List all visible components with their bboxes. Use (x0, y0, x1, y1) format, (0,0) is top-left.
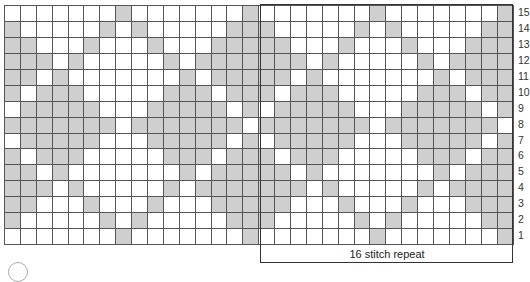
main-stitch-cell (323, 213, 339, 229)
main-stitch-cell (386, 149, 402, 165)
main-stitch-cell (355, 102, 371, 118)
contrast-stitch-cell (339, 118, 355, 134)
main-stitch-cell (418, 70, 434, 86)
contrast-stitch-cell (402, 38, 418, 54)
contrast-stitch-cell (275, 102, 291, 118)
contrast-stitch-cell (5, 22, 21, 38)
contrast-stitch-cell (243, 181, 259, 197)
contrast-stitch-cell (323, 134, 339, 150)
row-number: 10 (518, 85, 530, 101)
contrast-stitch-cell (402, 118, 418, 134)
contrast-stitch-cell (69, 54, 85, 70)
main-stitch-cell (180, 213, 196, 229)
contrast-stitch-cell (355, 213, 371, 229)
contrast-stitch-cell (291, 54, 307, 70)
contrast-stitch-cell (5, 38, 21, 54)
main-stitch-cell (84, 229, 100, 245)
contrast-stitch-cell (227, 38, 243, 54)
main-stitch-cell (275, 6, 291, 22)
contrast-stitch-cell (418, 149, 434, 165)
contrast-stitch-cell (434, 102, 450, 118)
main-stitch-cell (196, 22, 212, 38)
contrast-stitch-cell (275, 38, 291, 54)
main-stitch-cell (116, 102, 132, 118)
main-stitch-cell (21, 149, 37, 165)
main-stitch-cell (307, 54, 323, 70)
main-stitch-cell (434, 213, 450, 229)
contrast-stitch-cell (84, 118, 100, 134)
contrast-stitch-cell (243, 86, 259, 102)
main-stitch-cell (339, 54, 355, 70)
contrast-stitch-cell (227, 22, 243, 38)
contrast-stitch-cell (418, 54, 434, 70)
main-stitch-cell (164, 165, 180, 181)
contrast-stitch-cell (116, 6, 132, 22)
contrast-stitch-cell (339, 134, 355, 150)
contrast-stitch-cell (466, 54, 482, 70)
contrast-stitch-cell (21, 38, 37, 54)
contrast-stitch-cell (291, 134, 307, 150)
contrast-stitch-cell (307, 86, 323, 102)
main-stitch-cell (37, 38, 53, 54)
contrast-stitch-cell (291, 102, 307, 118)
main-stitch-cell (116, 86, 132, 102)
main-stitch-cell (307, 197, 323, 213)
main-stitch-cell (100, 229, 116, 245)
main-stitch-cell (37, 229, 53, 245)
contrast-stitch-cell (259, 22, 275, 38)
contrast-stitch-cell (243, 54, 259, 70)
main-stitch-cell (259, 229, 275, 245)
main-stitch-cell (116, 22, 132, 38)
contrast-stitch-cell (212, 102, 228, 118)
contrast-stitch-cell (69, 134, 85, 150)
main-stitch-cell (355, 181, 371, 197)
main-stitch-cell (370, 102, 386, 118)
contrast-stitch-cell (212, 70, 228, 86)
main-stitch-cell (164, 22, 180, 38)
contrast-stitch-cell (132, 118, 148, 134)
main-stitch-cell (37, 70, 53, 86)
main-stitch-cell (402, 165, 418, 181)
main-stitch-cell (196, 38, 212, 54)
main-stitch-cell (450, 229, 466, 245)
main-stitch-cell (339, 181, 355, 197)
main-stitch-cell (132, 86, 148, 102)
contrast-stitch-cell (37, 149, 53, 165)
main-stitch-cell (323, 197, 339, 213)
row-number: 12 (518, 53, 530, 69)
row-number-labels: 151413121110987654321 (518, 5, 530, 244)
main-stitch-cell (402, 22, 418, 38)
contrast-stitch-cell (243, 102, 259, 118)
main-stitch-cell (53, 6, 69, 22)
main-stitch-cell (148, 70, 164, 86)
contrast-stitch-cell (323, 102, 339, 118)
contrast-stitch-cell (5, 213, 21, 229)
contrast-stitch-cell (148, 102, 164, 118)
main-stitch-cell (402, 213, 418, 229)
main-stitch-cell (434, 54, 450, 70)
main-stitch-cell (450, 165, 466, 181)
main-stitch-cell (227, 6, 243, 22)
contrast-stitch-cell (196, 118, 212, 134)
main-stitch-cell (402, 229, 418, 245)
contrast-stitch-cell (275, 181, 291, 197)
main-stitch-cell (339, 86, 355, 102)
main-stitch-cell (69, 6, 85, 22)
row-number: 5 (518, 164, 530, 180)
row-number: 3 (518, 196, 530, 212)
contrast-stitch-cell (355, 22, 371, 38)
main-stitch-cell (148, 165, 164, 181)
contrast-stitch-cell (259, 54, 275, 70)
contrast-stitch-cell (53, 149, 69, 165)
contrast-stitch-cell (53, 70, 69, 86)
row-number: 14 (518, 21, 530, 37)
contrast-stitch-cell (498, 86, 514, 102)
main-stitch-cell (370, 70, 386, 86)
contrast-stitch-cell (227, 118, 243, 134)
contrast-stitch-cell (402, 197, 418, 213)
contrast-stitch-cell (5, 86, 21, 102)
main-stitch-cell (180, 38, 196, 54)
contrast-stitch-cell (339, 102, 355, 118)
main-stitch-cell (164, 197, 180, 213)
contrast-stitch-cell (37, 118, 53, 134)
